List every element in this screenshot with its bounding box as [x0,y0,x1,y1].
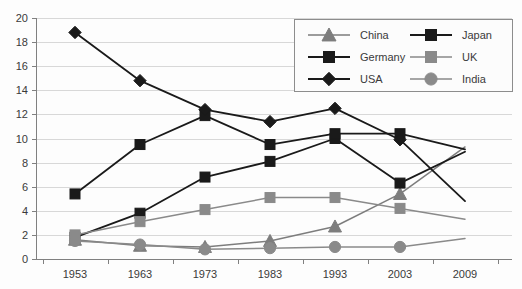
circle-marker [425,73,437,85]
square-marker [135,217,145,227]
square-marker [324,52,335,63]
x-axis-tick-labels: 1953196319731983199320032009 [63,268,477,280]
y-tick-label: 12 [16,108,28,120]
y-tick-label: 8 [22,157,28,169]
chart-legend: ChinaJapanGermanyUKUSAIndia [295,20,513,92]
square-marker [70,189,80,199]
triangle-marker [394,187,407,199]
circle-marker [199,244,210,255]
y-tick-label: 2 [22,229,28,241]
legend-label: Germany [360,51,406,63]
line-chart: 02468101214161820 1953196319731983199320… [0,0,522,289]
y-tick-label: 20 [16,12,28,24]
y-axis-tick-labels: 02468101214161820 [16,12,28,265]
x-tick-label: 2009 [453,268,477,280]
y-tick-label: 10 [16,133,28,145]
square-marker [265,193,275,203]
square-marker [330,193,340,203]
y-tick-label: 16 [16,60,28,72]
legend-label: UK [462,51,478,63]
circle-marker [264,243,275,254]
square-marker [426,52,437,63]
diamond-marker [329,102,341,114]
y-tick-label: 6 [22,181,28,193]
diamond-marker [264,115,276,127]
legend-label: USA [360,73,383,85]
square-marker [135,140,145,150]
square-marker [200,172,210,182]
legend-label: China [360,29,390,41]
legend-label: India [462,73,487,85]
x-tick-label: 1983 [258,268,282,280]
x-tick-label: 1973 [193,268,217,280]
x-tick-label: 1963 [128,268,152,280]
square-marker [395,178,405,188]
y-tick-label: 4 [22,205,28,217]
circle-marker [329,241,340,252]
triangle-marker [329,220,342,232]
y-tick-label: 14 [16,84,28,96]
diamond-marker [69,26,81,38]
y-tick-label: 0 [22,253,28,265]
x-tick-label: 1993 [323,268,347,280]
square-marker [200,205,210,215]
x-tick-label: 1953 [63,268,87,280]
square-marker [426,30,437,41]
chart-canvas: 02468101214161820 1953196319731983199320… [0,0,522,289]
circle-marker [394,241,405,252]
square-marker [265,140,275,150]
circle-marker [69,235,80,246]
x-tick-label: 2003 [388,268,412,280]
square-marker [330,129,340,139]
y-tick-label: 18 [16,36,28,48]
circle-marker [134,239,145,250]
diamond-marker [134,74,146,86]
square-marker [265,156,275,166]
legend-label: Japan [462,29,492,41]
square-marker [395,203,405,213]
